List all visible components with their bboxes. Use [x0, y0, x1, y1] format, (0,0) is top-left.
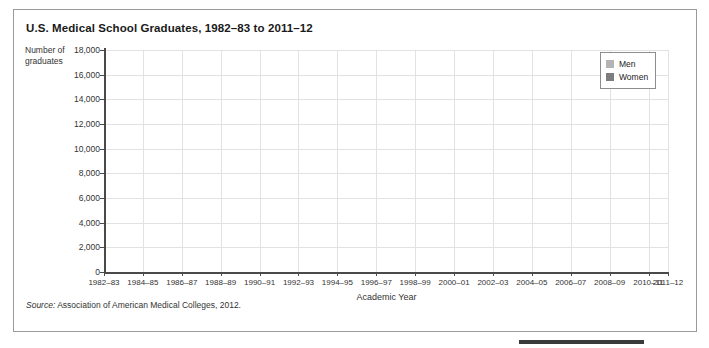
- x-tick-mark: [143, 272, 144, 276]
- y-tick-mark: [100, 223, 104, 224]
- gridline-y-8000: [104, 173, 668, 174]
- x-tick-mark: [182, 272, 183, 276]
- gridline-x: [532, 50, 533, 272]
- legend-item-women: Women: [606, 71, 648, 83]
- x-tick-mark: [104, 272, 105, 276]
- source-prefix: Source:: [26, 300, 55, 310]
- figure-root: U.S. Medical School Graduates, 1982–83 t…: [0, 0, 709, 348]
- x-axis-line: [104, 272, 669, 274]
- x-tick-label: 1996–97: [361, 278, 392, 287]
- x-tick-label: 1986–87: [166, 278, 197, 287]
- gridline-y-2000: [104, 247, 668, 248]
- x-tick-label: 1982–83: [88, 278, 119, 287]
- x-tick-mark: [415, 272, 416, 276]
- legend-swatch-women: [606, 73, 614, 81]
- gridline-x: [337, 50, 338, 272]
- gridline-x: [415, 50, 416, 272]
- gridline-x: [376, 50, 377, 272]
- y-tick-label: 8,000: [79, 168, 100, 178]
- x-tick-mark: [260, 272, 261, 276]
- gridline-y-6000: [104, 198, 668, 199]
- y-tick-mark: [100, 99, 104, 100]
- gridline-x: [668, 50, 669, 272]
- y-tick-mark: [100, 75, 104, 76]
- x-tick-label: 2008–09: [594, 278, 625, 287]
- legend-label-men: Men: [619, 59, 636, 69]
- gridline-x: [221, 50, 222, 272]
- x-tick-mark: [610, 272, 611, 276]
- y-tick-label: 2,000: [79, 242, 100, 252]
- x-tick-mark: [298, 272, 299, 276]
- gridline-x: [260, 50, 261, 272]
- x-tick-mark: [493, 272, 494, 276]
- y-tick-mark: [100, 198, 104, 199]
- plot-background: [104, 50, 668, 272]
- page-title: U.S. Medical School Graduates, 1982–83 t…: [26, 22, 313, 34]
- x-tick-mark: [221, 272, 222, 276]
- gridline-y-18000: [104, 50, 668, 51]
- gridline-x: [298, 50, 299, 272]
- legend-label-women: Women: [619, 72, 648, 82]
- y-tick-mark: [100, 173, 104, 174]
- x-tick-label: 1998–99: [400, 278, 431, 287]
- gridline-y-4000: [104, 223, 668, 224]
- y-tick-mark: [100, 149, 104, 150]
- y-axis-tick-labels: 02,0004,0006,0008,00010,00012,00014,0001…: [55, 50, 100, 272]
- y-tick-label: 14,000: [74, 94, 100, 104]
- x-tick-label: 1990–91: [244, 278, 275, 287]
- y-tick-label: 10,000: [74, 144, 100, 154]
- x-tick-label: 2006–07: [555, 278, 586, 287]
- gridline-x: [182, 50, 183, 272]
- y-tick-mark: [100, 124, 104, 125]
- x-tick-mark: [668, 272, 669, 276]
- gridline-y-12000: [104, 124, 668, 125]
- gridline-y-10000: [104, 149, 668, 150]
- x-tick-mark: [337, 272, 338, 276]
- x-tick-label: 2000–01: [438, 278, 469, 287]
- gridline-x: [143, 50, 144, 272]
- gridline-x: [571, 50, 572, 272]
- x-tick-label: 2011–12: [653, 278, 684, 287]
- y-tick-label: 16,000: [74, 70, 100, 80]
- gridline-x: [493, 50, 494, 272]
- legend-swatch-men: [606, 60, 614, 68]
- x-tick-label: 2004–05: [516, 278, 547, 287]
- y-tick-label: 18,000: [74, 45, 100, 55]
- x-tick-label: 1988–89: [205, 278, 236, 287]
- y-tick-mark: [100, 247, 104, 248]
- x-tick-mark: [649, 272, 650, 276]
- x-tick-mark: [454, 272, 455, 276]
- x-tick-mark: [376, 272, 377, 276]
- chart-legend: Men Women: [600, 52, 656, 89]
- x-tick-mark: [532, 272, 533, 276]
- gridline-y-14000: [104, 99, 668, 100]
- x-tick-label: 1984–85: [127, 278, 158, 287]
- y-tick-label: 4,000: [79, 218, 100, 228]
- y-tick-mark: [100, 50, 104, 51]
- legend-item-men: Men: [606, 58, 648, 70]
- x-tick-label: 1994–95: [322, 278, 353, 287]
- source-text: Association of American Medical Colleges…: [55, 300, 241, 310]
- x-tick-mark: [571, 272, 572, 276]
- x-tick-label: 2002–03: [477, 278, 508, 287]
- footer-bar: [519, 340, 644, 344]
- y-tick-label: 12,000: [74, 119, 100, 129]
- source-note: Source: Association of American Medical …: [26, 300, 241, 310]
- gridline-y-16000: [104, 75, 668, 76]
- y-tick-label: 6,000: [79, 193, 100, 203]
- x-tick-label: 1992–93: [283, 278, 314, 287]
- plot-area: [104, 50, 668, 272]
- gridline-x: [454, 50, 455, 272]
- y-axis-line: [104, 48, 106, 274]
